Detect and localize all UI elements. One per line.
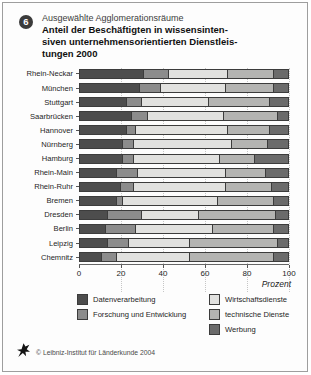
figure-frame: 6 Ausgewählte Agglomerationsräume Anteil… [2, 2, 308, 372]
bar-segment [266, 168, 289, 178]
bar-segment [190, 238, 278, 248]
category-label: Rhein-Main [3, 168, 76, 177]
bar-segment [117, 252, 191, 262]
bar-segment [79, 224, 106, 234]
bar-segment [134, 154, 220, 164]
x-axis-tick [163, 265, 164, 268]
bar-segment [226, 168, 266, 178]
bar-segment [79, 182, 121, 192]
category-label: Rhein-Neckar [3, 69, 76, 78]
chart-row: Bremen [3, 194, 307, 208]
bar-segment [142, 210, 199, 220]
x-axis-tick [247, 265, 248, 268]
bar-segment [79, 83, 140, 93]
category-label: Rhein-Ruhr [3, 182, 76, 191]
figure-title-line-3: tungen 2000 [42, 48, 237, 60]
bar-segment [79, 97, 127, 107]
bar-track [79, 83, 289, 93]
chart-legend: DatenverarbeitungForschung und Entwicklu… [77, 294, 307, 335]
chart-row: Hannover [3, 123, 307, 137]
category-label: Bremen [3, 196, 76, 205]
bar-segment [218, 196, 275, 206]
category-label: Chemnitz [3, 253, 76, 262]
bar-track [79, 168, 289, 178]
bar-segment [199, 210, 277, 220]
x-axis-title: Prozent [262, 279, 291, 289]
bar-segment [268, 139, 289, 149]
bar-segment [108, 238, 129, 248]
figure-kicker: Ausgewählte Agglomerationsräume [42, 13, 237, 23]
category-label: Berlin [3, 224, 76, 233]
bar-segment [274, 83, 289, 93]
chart-row: Leipzig [3, 236, 307, 250]
figure-title-line-1: Anteil der Beschäftigten in wissensinten… [42, 24, 237, 36]
bar-segment [169, 69, 228, 79]
bar-track [79, 69, 289, 79]
figure-title-line-2: siven unternehmensorientierten Dienstlei… [42, 36, 237, 48]
bar-segment [278, 238, 289, 248]
chart-row: Dresden [3, 208, 307, 222]
category-label: Hannover [3, 126, 76, 135]
bar-segment [270, 97, 289, 107]
chart-row: Chemnitz [3, 250, 307, 264]
chart-row: Saarbrücken [3, 109, 307, 123]
bar-segment [79, 69, 144, 79]
legend-label: Forschung und Entwicklung [93, 310, 186, 319]
category-label: Nürnberg [3, 140, 76, 149]
bar-track [79, 224, 289, 234]
bar-track [79, 154, 289, 164]
bar-segment [129, 238, 190, 248]
bar-segment [127, 97, 142, 107]
bar-segment [79, 154, 123, 164]
x-axis-tick-label: 0 [77, 269, 81, 278]
leibniz-institute-logo-icon [17, 343, 30, 362]
bar-segment [79, 238, 108, 248]
bar-segment [79, 252, 102, 262]
legend-item: technische Dienste [209, 309, 289, 320]
bar-segment [123, 154, 134, 164]
x-axis-tick [289, 265, 290, 268]
bar-track [79, 196, 289, 206]
bar-segment [224, 111, 279, 121]
bar-track [79, 210, 289, 220]
bar-segment [161, 83, 226, 93]
x-axis-tick-label: 20 [117, 269, 126, 278]
figure-header: 6 Ausgewählte Agglomerationsräume Anteil… [3, 3, 307, 60]
bar-segment [136, 224, 214, 234]
x-axis: Prozent 020406080100 [79, 264, 289, 292]
bar-track [79, 182, 289, 192]
bar-segment [226, 83, 274, 93]
bar-track [79, 252, 289, 262]
x-axis-tick [121, 265, 122, 268]
bar-segment [79, 168, 117, 178]
bar-track [79, 97, 289, 107]
bar-segment [272, 182, 289, 192]
bar-segment [144, 69, 169, 79]
legend-item: Wirtschaftsdienste [209, 294, 289, 305]
legend-item: Datenverarbeitung [77, 294, 209, 305]
category-label: Dresden [3, 210, 76, 219]
stacked-bar-chart: Rhein-NeckarMünchenStuttgartSaarbrückenH… [3, 67, 307, 292]
bar-segment [79, 111, 132, 121]
bar-segment [117, 168, 138, 178]
bar-track [79, 238, 289, 248]
bar-segment [278, 111, 289, 121]
bar-segment [213, 224, 274, 234]
bar-segment [274, 196, 289, 206]
legend-label: Datenverarbeitung [93, 295, 155, 304]
bar-segment [136, 125, 228, 135]
chart-row: Hamburg [3, 151, 307, 165]
bar-segment [255, 154, 289, 164]
bar-segment [142, 97, 209, 107]
legend-column: Wirtschaftsdienstetechnische DiensteWerb… [209, 294, 289, 335]
chart-row: Stuttgart [3, 95, 307, 109]
bar-segment [274, 224, 289, 234]
legend-label: Werbung [225, 325, 256, 334]
chart-row: Rhein-Neckar [3, 67, 307, 81]
x-axis-tick-label: 40 [159, 269, 168, 278]
chart-row: Rhein-Main [3, 166, 307, 180]
bar-segment [232, 139, 268, 149]
bar-segment [79, 210, 108, 220]
category-label: Leipzig [3, 239, 76, 248]
bar-segment [108, 210, 142, 220]
